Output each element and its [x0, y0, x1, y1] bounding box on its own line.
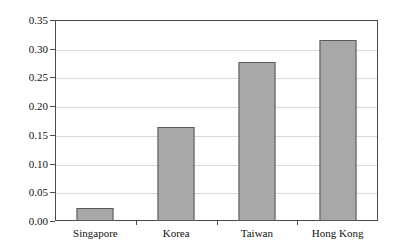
bar	[158, 127, 195, 221]
y-tick-label: 0.35	[2, 15, 48, 26]
bar-slot	[297, 20, 378, 221]
x-tick-mark	[297, 221, 298, 225]
y-tick-label: 0.05	[2, 187, 48, 198]
bar-slot	[55, 20, 136, 221]
y-tick-label: 0.10	[2, 158, 48, 169]
y-tick-label: 0.15	[2, 129, 48, 140]
y-tick-label: 0.00	[2, 216, 48, 227]
bar	[319, 40, 356, 221]
x-category-label: Korea	[163, 228, 190, 239]
y-tick-label: 0.30	[2, 43, 48, 54]
y-axis-label-group: 0.000.050.100.150.200.250.300.35	[0, 0, 48, 251]
bar-slot	[136, 20, 217, 221]
x-category-label: Taiwan	[241, 228, 273, 239]
bar-slot	[217, 20, 298, 221]
x-tick-mark	[217, 221, 218, 225]
bar	[238, 62, 275, 221]
bar	[77, 208, 114, 221]
x-category-label: Singapore	[73, 228, 118, 239]
y-tick-label: 0.25	[2, 72, 48, 83]
bar-series	[55, 20, 378, 221]
y-tick-label: 0.20	[2, 101, 48, 112]
y-tick-mark	[50, 221, 55, 222]
x-category-label: Hong Kong	[312, 228, 364, 239]
bar-chart: 0.000.050.100.150.200.250.300.35 Singapo…	[0, 0, 395, 251]
x-tick-mark	[136, 221, 137, 225]
